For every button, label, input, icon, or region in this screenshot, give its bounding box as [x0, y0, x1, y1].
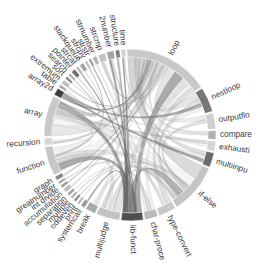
label-outputflo: outputflo	[218, 110, 251, 124]
label-recursion: recursion	[6, 137, 41, 149]
arc-strcmp[interactable]	[98, 53, 107, 63]
label-function: function	[16, 158, 46, 176]
arc-recursion[interactable]	[44, 138, 53, 146]
label-nestloop: nestloop	[210, 80, 242, 101]
arc-exhausti[interactable]	[207, 140, 216, 151]
label-time: time	[118, 29, 128, 46]
chord-ribbons	[52, 57, 208, 213]
arc-structure[interactable]	[115, 50, 120, 59]
label-compare: compare	[220, 130, 252, 139]
arc-compare[interactable]	[208, 130, 216, 139]
arc-2number[interactable]	[106, 51, 115, 60]
label-type-convert: type-convert	[166, 214, 194, 259]
arc-lib-funct[interactable]	[121, 212, 143, 221]
label-array: array	[23, 106, 44, 119]
label-exhausti: exhausti	[219, 142, 251, 155]
label-if-else: if-else	[196, 189, 219, 210]
label-multiinpu: multiinpu	[215, 157, 249, 175]
label-loop: loop	[167, 38, 182, 56]
label-lib-funct: lib-funct	[128, 225, 138, 255]
label-multijudge: multijudge	[92, 220, 110, 259]
arc-time[interactable]	[121, 49, 126, 57]
label-char-proce: char-proce	[148, 221, 167, 262]
chord-diagram: loopnestloopoutputflocompareexhaustimult…	[0, 0, 259, 265]
arc-outputflo[interactable]	[205, 113, 215, 130]
